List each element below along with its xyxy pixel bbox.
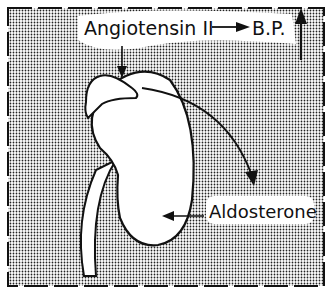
angiotensin-label: Angiotensin II (84, 17, 214, 39)
bp-label: B.P. (252, 17, 286, 39)
diagram-canvas: Angiotensin II B.P. Aldosterone (0, 0, 329, 303)
aldosterone-label: Aldosterone (209, 201, 317, 222)
kidney-diagram: Angiotensin II B.P. Aldosterone (0, 0, 329, 303)
